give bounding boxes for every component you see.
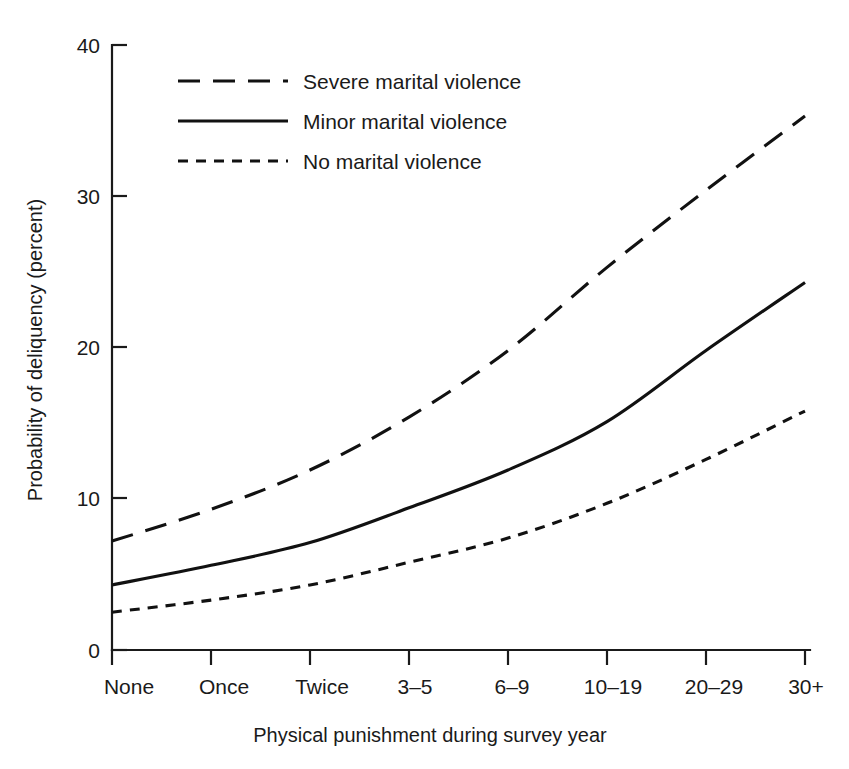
x-tick-label-10-19: 10–19 — [584, 675, 642, 698]
y-tick-label-30: 30 — [77, 185, 100, 208]
x-tick-label-20-29: 20–29 — [685, 675, 743, 698]
legend-label-severe: Severe marital violence — [303, 70, 521, 93]
y-tick-label-40: 40 — [77, 34, 100, 57]
y-tick-label-0: 0 — [88, 639, 100, 662]
x-axis-title: Physical punishment during survey year — [253, 724, 607, 746]
x-tick-label-twice: Twice — [295, 675, 349, 698]
x-tick-label-3-5: 3–5 — [397, 675, 432, 698]
y-tick-label-10: 10 — [77, 487, 100, 510]
x-tick-label-once: Once — [199, 675, 249, 698]
chart-figure: 40 30 20 10 0 None Once Twice 3–5 6–9 10… — [0, 0, 849, 769]
legend-label-none: No marital violence — [303, 150, 482, 173]
x-tick-label-6-9: 6–9 — [494, 675, 529, 698]
legend-label-minor: Minor marital violence — [303, 110, 507, 133]
x-tick-label-none: None — [104, 675, 154, 698]
y-axis-title: Probability of deliquency (percent) — [24, 199, 46, 501]
x-tick-label-30-plus: 30+ — [788, 675, 824, 698]
y-tick-label-20: 20 — [77, 336, 100, 359]
line-chart: 40 30 20 10 0 None Once Twice 3–5 6–9 10… — [0, 0, 849, 769]
